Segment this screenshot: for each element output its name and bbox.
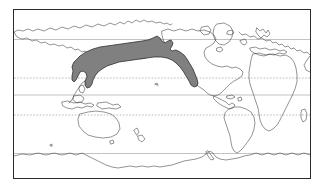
coastline-british-isles [240,39,247,45]
coastline-pacific-island-a [50,144,52,146]
coastline-hawaii [155,83,158,85]
coastline-africa [249,53,297,131]
coastline-greenland [213,23,233,45]
distribution-range-north-pacific [72,36,198,88]
distribution-range-layer [72,36,198,88]
coastline-new-zealand [134,128,145,142]
coastline-eurasia-north [14,20,172,32]
coastline-madagascar [301,109,307,122]
coastline-philippines [79,85,85,93]
map-frame [13,9,311,179]
coastline-newfoundland [217,47,223,52]
coastline-tasmania [110,140,114,144]
coastline-borneo [73,95,84,103]
coastline-south-america [224,107,255,153]
coastline-arabia-india [304,56,310,72]
distribution-range-map-figure [0,0,324,190]
coastline-scandinavia [256,28,270,38]
coastline-caribbean-islands [227,95,242,101]
coastline-europe-mediterranean [239,32,310,55]
coastline-central-america [214,96,235,109]
coastline-indonesia [62,101,94,109]
coastline-antarctic-peninsula [206,151,214,160]
coastline-new-guinea [97,102,121,109]
world-map-svg [14,10,310,178]
